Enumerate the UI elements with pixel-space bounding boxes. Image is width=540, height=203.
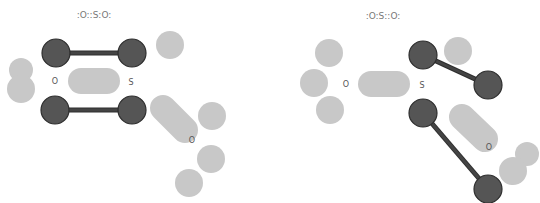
- atom: [409, 99, 437, 127]
- lone-pair-lobes: [7, 31, 226, 197]
- lone-pair-lobe: [7, 75, 35, 103]
- atom: [42, 39, 70, 67]
- lone-pair-lobe: [444, 37, 472, 65]
- lone-pair-lobe: [198, 102, 226, 130]
- lone-pair-lobe: [315, 39, 343, 67]
- atom: [41, 96, 69, 124]
- atom: [409, 41, 437, 69]
- bond-lobe: [462, 117, 485, 139]
- atom: [118, 39, 146, 67]
- lone-pair-lobe: [300, 69, 328, 97]
- atom-label: O: [189, 136, 195, 145]
- atom-label: S: [419, 81, 424, 90]
- atom-label: S: [128, 78, 133, 87]
- lone-pair-lobe: [175, 169, 203, 197]
- lewis-structure-1: :O::S:O:: [77, 10, 112, 20]
- atom-label: O: [486, 143, 492, 152]
- lone-pair-lobe: [197, 145, 225, 173]
- lone-pair-lobe: [156, 31, 184, 59]
- sulfur-dioxide-resonance-diagram: :O::S:O: OSO :O:S::O: OSO: [0, 0, 540, 203]
- lewis-structure-2: :O:S::O:: [366, 11, 401, 21]
- atom-label: O: [343, 80, 349, 89]
- resonance-structure-2: :O:S::O: OSO: [300, 11, 539, 203]
- lone-pair-lobe: [499, 157, 527, 185]
- atom: [474, 71, 502, 99]
- atom-label: O: [52, 77, 58, 86]
- lone-pair-lobe: [316, 96, 344, 124]
- bond-lobe: [163, 108, 185, 130]
- atom: [118, 96, 146, 124]
- resonance-structure-1: :O::S:O: OSO: [7, 10, 226, 197]
- atom: [474, 175, 502, 203]
